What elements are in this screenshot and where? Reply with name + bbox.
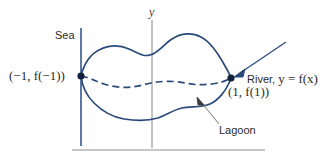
lagoon-river-figure: y Sea (−1, f(−1)) River,y = f(x) (1, f(1… [0, 0, 325, 165]
lagoon-label: Lagoon [219, 125, 256, 136]
right-point-label: (1, f(1)) [228, 85, 269, 98]
right-point-marker [227, 74, 234, 81]
sea-label: Sea [55, 30, 75, 41]
upper-lagoon-boundary [81, 34, 231, 78]
river-arrow-icon [234, 69, 245, 77]
left-point-label: (−1, f(−1)) [9, 69, 65, 82]
river-leader-line [240, 42, 286, 73]
river-curve [81, 76, 231, 87]
y-axis-label: y [149, 6, 154, 18]
left-point-marker [77, 72, 84, 79]
lagoon-arrow-icon [197, 97, 204, 105]
river-label-equation: y = f(x) [275, 71, 318, 86]
